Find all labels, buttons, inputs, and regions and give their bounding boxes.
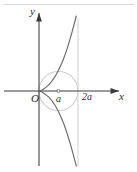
origin-label: O [31, 93, 39, 104]
figure-container: y x O a 2a [0, 0, 137, 172]
cissoid-plot [0, 0, 137, 172]
x-axis-label: x [119, 91, 124, 102]
x-axis-arrowhead [111, 88, 120, 94]
cissoid-upper-branch [39, 16, 76, 91]
point-a-label: a [56, 94, 61, 104]
point-2a-label: 2a [82, 92, 92, 102]
y-axis-arrowhead [36, 13, 42, 22]
y-axis-label: y [30, 6, 35, 17]
